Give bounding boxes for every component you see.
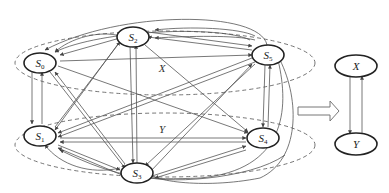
svg-text:X: X: [352, 60, 361, 72]
node-s1: S1: [24, 126, 56, 146]
node-s4: S4: [247, 128, 279, 148]
group-y-label: Y: [159, 123, 167, 135]
node-s3: S3: [121, 163, 153, 183]
group-x-label: X: [158, 62, 167, 74]
edges: [32, 19, 293, 183]
node-s2: S2: [117, 27, 149, 47]
state-aggregation-diagram: S0 S2 S5 S1 S3 S4 X Y X Y: [0, 0, 389, 193]
node-s5: S5: [252, 45, 284, 65]
node-x: X: [335, 55, 377, 77]
node-y: Y: [335, 133, 377, 155]
transform-arrow-icon: [298, 101, 339, 121]
node-s0: S0: [24, 53, 56, 73]
